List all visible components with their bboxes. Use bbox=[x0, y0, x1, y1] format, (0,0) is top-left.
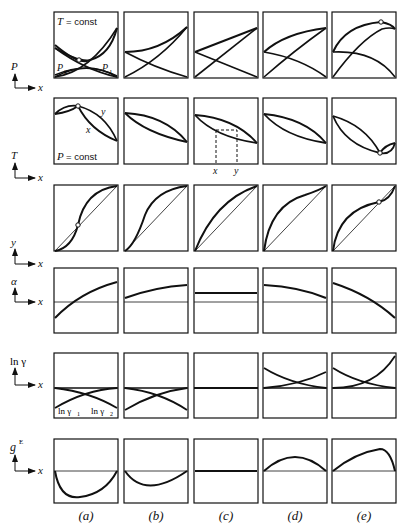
panel-alpha-c bbox=[194, 268, 258, 333]
panel-alpha-e bbox=[332, 268, 396, 333]
axis-label-y: y bbox=[10, 236, 16, 248]
panel-lngamma-c bbox=[194, 353, 258, 418]
curve-label-P1-sub: 1 bbox=[109, 68, 113, 76]
curve-label-lngamma2-sub: 2 bbox=[110, 411, 113, 417]
axis-label-g-superscript: E bbox=[19, 438, 23, 446]
row-ge bbox=[54, 439, 396, 503]
panel-yx-c bbox=[194, 185, 258, 251]
curve-label-P1: P bbox=[101, 62, 108, 73]
axis-label-x: x bbox=[37, 378, 43, 390]
panel-txy-e bbox=[332, 98, 396, 164]
column-label-c: (c) bbox=[194, 508, 258, 524]
curve-label-lngamma1-sub: 1 bbox=[77, 411, 80, 417]
row-alpha bbox=[54, 268, 396, 333]
axis-label-P: P bbox=[10, 60, 18, 72]
annotation-P-const: = const bbox=[66, 151, 97, 162]
axis-label-x: x bbox=[37, 295, 43, 307]
panel-pxy-e bbox=[332, 12, 396, 78]
panel-ge-d bbox=[263, 439, 327, 503]
panel-pxy-c bbox=[194, 12, 258, 78]
panel-pxy-b bbox=[124, 12, 188, 78]
panel-pxy-d bbox=[263, 12, 327, 78]
row-lngamma bbox=[54, 353, 396, 418]
annotation-T-const: = const bbox=[66, 16, 97, 27]
curve-label-P2-sub: 2 bbox=[64, 68, 68, 76]
column-label-b: (b) bbox=[124, 508, 188, 524]
panel-ge-c bbox=[194, 439, 258, 503]
axis-indicators bbox=[15, 74, 35, 471]
phase-diagram-figure: P x T x y x α x ln γ x g E x T = const P… bbox=[0, 0, 407, 532]
panel-yx-a bbox=[54, 185, 118, 251]
axis-label-x: x bbox=[37, 257, 43, 269]
tie-line-label-x: x bbox=[212, 165, 218, 176]
panel-yx-e bbox=[332, 185, 396, 251]
column-label-a: (a) bbox=[54, 508, 118, 524]
axis-label-alpha: α bbox=[11, 275, 17, 287]
label-T: T bbox=[57, 15, 64, 27]
row-yx bbox=[54, 185, 396, 251]
curve-label-P2: P bbox=[56, 62, 63, 73]
curve-label-lngamma2: ln γ bbox=[91, 406, 104, 416]
axis-label-lngamma: ln γ bbox=[10, 355, 26, 367]
curve-label-x: x bbox=[85, 124, 91, 135]
panel-alpha-b bbox=[124, 268, 188, 333]
axis-label-g: g bbox=[10, 440, 16, 454]
axis-label-T: T bbox=[11, 149, 18, 161]
column-label-d: (d) bbox=[263, 508, 327, 524]
panel-lngamma-b bbox=[124, 353, 188, 418]
panel-ge-e bbox=[332, 439, 396, 503]
panel-txy-b bbox=[124, 98, 188, 164]
tie-line-label-y: y bbox=[233, 165, 239, 176]
axis-label-x: x bbox=[37, 464, 43, 476]
label-P: P bbox=[56, 150, 64, 162]
panel-lngamma-d bbox=[263, 353, 327, 418]
curve-label-y: y bbox=[100, 106, 106, 117]
panel-txy-c bbox=[194, 98, 258, 164]
panel-lngamma-e bbox=[332, 353, 396, 418]
panel-yx-d bbox=[263, 185, 327, 251]
axis-label-x: x bbox=[37, 81, 43, 93]
curve-label-lngamma1: ln γ bbox=[58, 406, 71, 416]
panel-ge-a bbox=[54, 439, 118, 503]
axis-label-x: x bbox=[37, 171, 43, 183]
panel-ge-b bbox=[124, 439, 188, 503]
column-label-e: (e) bbox=[332, 508, 396, 524]
panel-txy-d bbox=[263, 98, 327, 164]
panel-alpha-d bbox=[263, 268, 327, 333]
panel-yx-b bbox=[124, 185, 188, 251]
panel-alpha-a bbox=[54, 268, 118, 333]
